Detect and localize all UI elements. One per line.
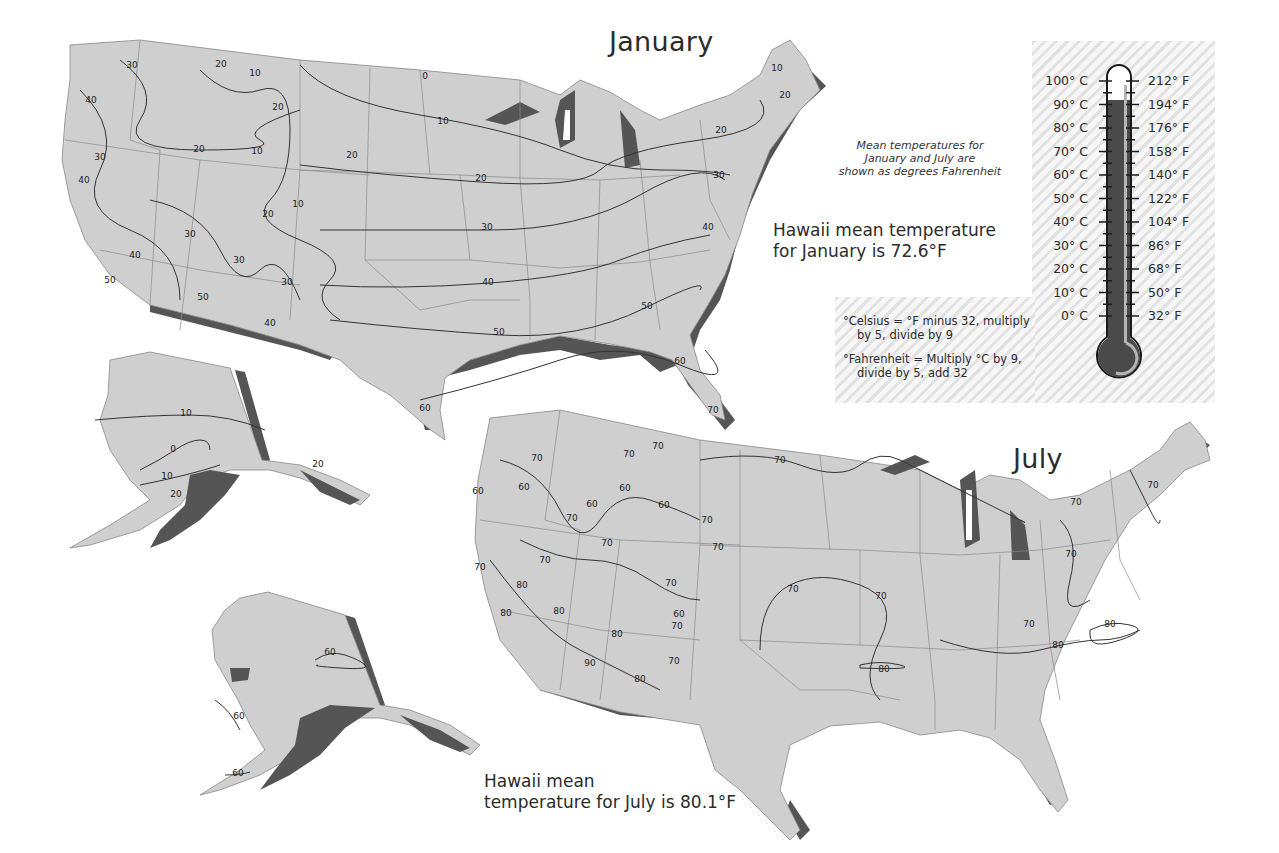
july-isotherm-label: 60 <box>324 647 336 657</box>
july-isotherm-label: 70 <box>712 542 724 552</box>
january-isotherm-label: 10 <box>292 199 304 209</box>
fahrenheit-tick-label: 50° F <box>1148 285 1181 300</box>
january-isotherm-label: 40 <box>482 277 494 287</box>
alaska-january-isotherm-label: 0 <box>170 444 176 454</box>
celsius-tick-label: 80° C <box>1036 120 1088 135</box>
celsius-tick-label: 20° C <box>1036 261 1088 276</box>
july-isotherm-label: 70 <box>652 441 664 451</box>
alaska-january-isotherm-label: 20 <box>312 459 324 469</box>
january-isotherm-label: 20 <box>475 173 487 183</box>
july-isotherm-label: 70 <box>601 538 613 548</box>
fahrenheit-tick-label: 176° F <box>1148 120 1189 135</box>
july-isotherm-label: 70 <box>701 515 713 525</box>
january-isotherm-label: 20 <box>262 209 274 219</box>
july-isotherm-label: 70 <box>875 591 887 601</box>
celsius-tick-label: 100° C <box>1036 73 1088 88</box>
july-isotherm-label: 70 <box>668 656 680 666</box>
july-isotherm-label: 70 <box>566 513 578 523</box>
hawaii-january-note: Hawaii mean temperature for January is 7… <box>773 220 996 262</box>
july-isotherm-label: 60 <box>586 499 598 509</box>
january-isotherm-label: 40 <box>78 175 90 185</box>
alaska-january-isotherm-label: 10 <box>161 471 173 481</box>
fahrenheit-tick-label: 212° F <box>1148 73 1189 88</box>
july-isotherm-label: 60 <box>518 482 530 492</box>
celsius-tick-label: 90° C <box>1036 97 1088 112</box>
july-isotherm-label: 60 <box>673 609 685 619</box>
july-isotherm-label: 70 <box>531 453 543 463</box>
january-isotherm-label: 30 <box>233 255 245 265</box>
thermometer-icon <box>1090 55 1150 395</box>
july-isotherm-label: 80 <box>878 664 890 674</box>
conversion-formulas: °Celsius = °F minus 32, multiply by 5, d… <box>843 314 1033 390</box>
july-isotherm-label: 60 <box>232 768 244 778</box>
alaska-january-isotherm-label: 10 <box>180 408 192 418</box>
fahrenheit-tick-label: 122° F <box>1148 191 1189 206</box>
july-isotherm-label: 60 <box>472 486 484 496</box>
july-isotherm-label: 70 <box>474 562 486 572</box>
fahrenheit-tick-label: 194° F <box>1148 97 1189 112</box>
january-isotherm-label: 20 <box>193 144 205 154</box>
july-title: July <box>1013 443 1063 474</box>
january-isotherm-label: 30 <box>126 60 138 70</box>
january-isotherm-label: 50 <box>493 327 505 337</box>
celsius-tick-label: 60° C <box>1036 167 1088 182</box>
january-isotherm-label: 30 <box>713 170 725 180</box>
july-isotherm-label: 80 <box>516 580 528 590</box>
january-isotherm-label: 60 <box>674 356 686 366</box>
january-isotherm-label: 10 <box>437 116 449 126</box>
july-isotherm-label: 90 <box>584 658 596 668</box>
january-isotherm-label: 30 <box>184 229 196 239</box>
july-isotherm-label: 60 <box>658 500 670 510</box>
january-isotherm-label: 40 <box>702 222 714 232</box>
fahrenheit-tick-label: 32° F <box>1148 308 1181 323</box>
alaska-january-isotherm-label: 20 <box>170 489 182 499</box>
january-isotherm-label: 10 <box>249 68 261 78</box>
july-isotherm-label: 70 <box>1023 619 1035 629</box>
january-isotherm-label: 0 <box>422 71 428 81</box>
hawaii-july-note: Hawaii mean temperature for July is 80.1… <box>484 771 736 813</box>
celsius-tick-label: 50° C <box>1036 191 1088 206</box>
fahrenheit-tick-label: 140° F <box>1148 167 1189 182</box>
fahrenheit-tick-label: 86° F <box>1148 238 1181 253</box>
celsius-tick-label: 10° C <box>1036 285 1088 300</box>
fahrenheit-tick-label: 158° F <box>1148 144 1189 159</box>
fahrenheit-formula: °Fahrenheit = Multiply °C by 9, divide b… <box>843 352 1033 380</box>
july-isotherm-label: 80 <box>553 606 565 616</box>
alaska-july-map <box>200 592 480 795</box>
july-isotherm-label: 70 <box>539 555 551 565</box>
january-isotherm-label: 10 <box>251 146 263 156</box>
celsius-formula: °Celsius = °F minus 32, multiply by 5, d… <box>843 314 1033 342</box>
january-isotherm-label: 60 <box>419 403 431 413</box>
july-isotherm-label: 80 <box>611 629 623 639</box>
january-isotherm-label: 70 <box>707 405 719 415</box>
fahrenheit-tick-label: 104° F <box>1148 214 1189 229</box>
january-isotherm-label: 50 <box>197 292 209 302</box>
july-isotherm-label: 70 <box>1147 480 1159 490</box>
celsius-tick-label: 70° C <box>1036 144 1088 159</box>
january-isotherm-label: 30 <box>94 152 106 162</box>
january-isotherm-label: 30 <box>281 277 293 287</box>
january-title: January <box>609 26 713 57</box>
july-isotherm-label: 80 <box>1052 640 1064 650</box>
july-isotherm-label: 70 <box>623 449 635 459</box>
celsius-tick-label: 30° C <box>1036 238 1088 253</box>
july-isotherm-label: 80 <box>1104 619 1116 629</box>
mean-temperature-note: Mean temperatures for January and July a… <box>820 139 1020 178</box>
july-isotherm-label: 60 <box>619 483 631 493</box>
july-isotherm-label: 70 <box>665 578 677 588</box>
celsius-tick-label: 0° C <box>1036 308 1088 323</box>
january-isotherm-label: 50 <box>104 275 116 285</box>
january-isotherm-label: 40 <box>264 318 276 328</box>
july-isotherm-label: 70 <box>1070 497 1082 507</box>
january-isotherm-label: 20 <box>215 59 227 69</box>
january-isotherm-label: 40 <box>129 250 141 260</box>
january-isotherm-label: 40 <box>85 95 97 105</box>
celsius-tick-label: 40° C <box>1036 214 1088 229</box>
july-isotherm-label: 60 <box>233 711 245 721</box>
january-isotherm-label: 30 <box>481 222 493 232</box>
january-isotherm-label: 50 <box>641 301 653 311</box>
january-isotherm-label: 20 <box>779 90 791 100</box>
july-isotherm-label: 70 <box>671 621 683 631</box>
july-isotherm-label: 70 <box>1065 549 1077 559</box>
alaska-january-map <box>70 352 370 548</box>
